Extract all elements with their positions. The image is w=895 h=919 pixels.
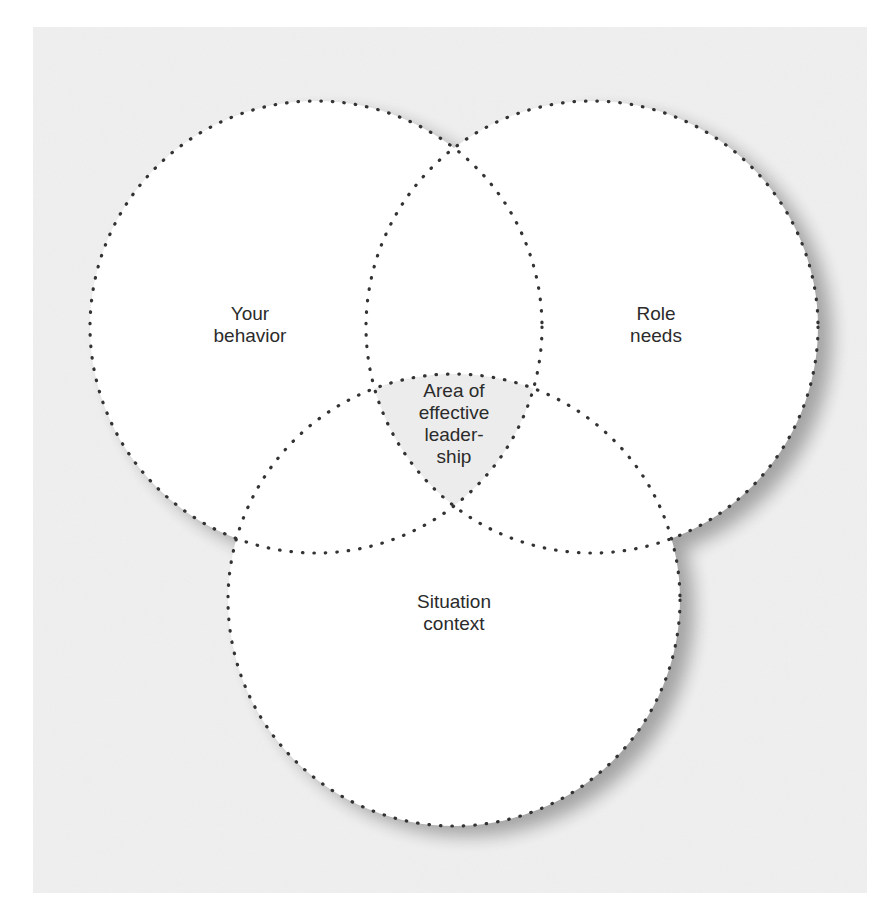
label-your-behavior: Your behavior <box>214 303 287 347</box>
label-area-of-effective-leadership: Area of effective leader- ship <box>419 380 489 468</box>
label-role-needs: Role needs <box>630 303 682 347</box>
venn-diagram: Your behavior Role needs Area of effecti… <box>0 0 895 919</box>
label-situation-context: Situation context <box>417 591 491 635</box>
